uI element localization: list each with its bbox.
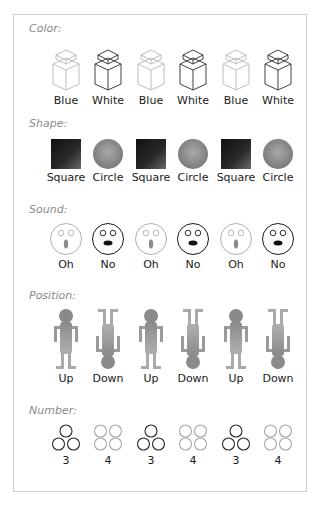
stimulus-label: White bbox=[256, 94, 300, 107]
stimulus-item: 3 bbox=[44, 424, 88, 467]
stimulus-item: Oh bbox=[129, 222, 173, 271]
section-title-sound: Sound: bbox=[29, 203, 67, 216]
stimulus-label: Circle bbox=[171, 171, 215, 184]
three-circles-icon bbox=[214, 424, 258, 452]
stimulus-label: Circle bbox=[86, 171, 130, 184]
cube-dark-icon bbox=[86, 48, 130, 92]
cube-light-icon bbox=[214, 48, 258, 92]
stimulus-label: Blue bbox=[214, 94, 258, 107]
figure-up-icon bbox=[129, 308, 173, 370]
stimulus-item: 4 bbox=[171, 424, 215, 467]
stimulus-label: Up bbox=[214, 372, 258, 385]
stimulus-item: Circle bbox=[86, 139, 130, 184]
stimulus-item: No bbox=[256, 222, 300, 271]
stimulus-label: White bbox=[86, 94, 130, 107]
stimulus-item: White bbox=[256, 48, 300, 107]
section-title-position: Position: bbox=[29, 289, 76, 302]
stimulus-label: Circle bbox=[256, 171, 300, 184]
stimulus-label: No bbox=[171, 258, 215, 271]
stimulus-label: White bbox=[171, 94, 215, 107]
stimulus-item: Square bbox=[44, 139, 88, 184]
stimulus-item: Square bbox=[214, 139, 258, 184]
stimulus-label: 3 bbox=[214, 454, 258, 467]
stimulus-label: Down bbox=[171, 372, 215, 385]
stimulus-label: Square bbox=[129, 171, 173, 184]
figure-up-icon bbox=[44, 308, 88, 370]
section-title-number: Number: bbox=[29, 404, 77, 417]
stimulus-item: White bbox=[171, 48, 215, 107]
circle-icon bbox=[86, 139, 130, 169]
stimulus-label: 3 bbox=[129, 454, 173, 467]
figure-down-icon bbox=[171, 308, 215, 370]
figure-up-icon bbox=[214, 308, 258, 370]
section-title-color: Color: bbox=[29, 22, 61, 35]
square-icon bbox=[129, 139, 173, 169]
stimulus-item: 3 bbox=[129, 424, 173, 467]
stimulus-item: Oh bbox=[214, 222, 258, 271]
square-icon bbox=[214, 139, 258, 169]
stimulus-label: Down bbox=[256, 372, 300, 385]
stimulus-item: Up bbox=[214, 308, 258, 385]
cube-dark-icon bbox=[256, 48, 300, 92]
four-circles-icon bbox=[171, 424, 215, 452]
stimulus-label: Blue bbox=[129, 94, 173, 107]
stimulus-item: Circle bbox=[171, 139, 215, 184]
figure-down-icon bbox=[86, 308, 130, 370]
stimulus-item: Oh bbox=[44, 222, 88, 271]
face-no-icon bbox=[86, 222, 130, 256]
three-circles-icon bbox=[44, 424, 88, 452]
stimulus-item: No bbox=[86, 222, 130, 271]
three-circles-icon bbox=[129, 424, 173, 452]
stimulus-label: Down bbox=[86, 372, 130, 385]
four-circles-icon bbox=[256, 424, 300, 452]
face-no-icon bbox=[256, 222, 300, 256]
stimulus-item: Down bbox=[171, 308, 215, 385]
stimulus-label: Square bbox=[214, 171, 258, 184]
stimulus-label: 4 bbox=[171, 454, 215, 467]
four-circles-icon bbox=[86, 424, 130, 452]
stimulus-label: Up bbox=[44, 372, 88, 385]
cube-light-icon bbox=[129, 48, 173, 92]
stimulus-label: No bbox=[256, 258, 300, 271]
circle-icon bbox=[256, 139, 300, 169]
stimulus-label: Oh bbox=[214, 258, 258, 271]
stimulus-item: White bbox=[86, 48, 130, 107]
stimulus-item: Circle bbox=[256, 139, 300, 184]
section-title-shape: Shape: bbox=[29, 117, 67, 130]
figure-down-icon bbox=[256, 308, 300, 370]
stimulus-label: 4 bbox=[256, 454, 300, 467]
stimulus-label: 3 bbox=[44, 454, 88, 467]
face-no-icon bbox=[171, 222, 215, 256]
circle-icon bbox=[171, 139, 215, 169]
face-oh-icon bbox=[44, 222, 88, 256]
stimulus-item: Square bbox=[129, 139, 173, 184]
stimulus-label: Blue bbox=[44, 94, 88, 107]
stimulus-item: 3 bbox=[214, 424, 258, 467]
stimulus-item: Blue bbox=[44, 48, 88, 107]
stimulus-item: Up bbox=[129, 308, 173, 385]
stimulus-item: No bbox=[171, 222, 215, 271]
cube-light-icon bbox=[44, 48, 88, 92]
stimulus-label: Oh bbox=[129, 258, 173, 271]
stimulus-label: Up bbox=[129, 372, 173, 385]
stimulus-label: 4 bbox=[86, 454, 130, 467]
stimulus-label: Square bbox=[44, 171, 88, 184]
face-oh-icon bbox=[214, 222, 258, 256]
stimulus-label: Oh bbox=[44, 258, 88, 271]
square-icon bbox=[44, 139, 88, 169]
stimulus-item: Down bbox=[86, 308, 130, 385]
stimulus-item: Up bbox=[44, 308, 88, 385]
stimulus-label: No bbox=[86, 258, 130, 271]
cube-dark-icon bbox=[171, 48, 215, 92]
stimulus-item: Blue bbox=[129, 48, 173, 107]
stimulus-item: Blue bbox=[214, 48, 258, 107]
face-oh-icon bbox=[129, 222, 173, 256]
stimulus-item: 4 bbox=[256, 424, 300, 467]
stimulus-item: 4 bbox=[86, 424, 130, 467]
stimulus-item: Down bbox=[256, 308, 300, 385]
